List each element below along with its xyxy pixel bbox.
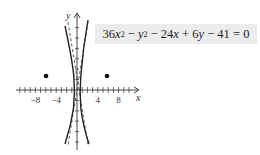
equation-label: 36x2 − y2 − 24x + 6y − 41 = 0	[95, 24, 257, 44]
y-axis-label: y	[65, 10, 71, 21]
x-tick-label: 8	[116, 95, 121, 105]
x-axis-label: x	[135, 92, 141, 103]
x-tick-label: −8	[31, 95, 41, 105]
x-tick-label: 4	[96, 95, 101, 105]
left-branch	[65, 26, 74, 144]
focus-point-left	[44, 74, 49, 79]
x-tick-label: −4	[51, 95, 61, 105]
focus-point-right	[105, 74, 110, 79]
